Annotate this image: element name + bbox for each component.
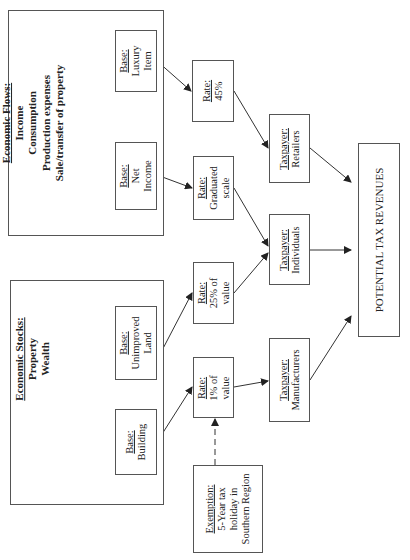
- rate-label: Rate:: [201, 80, 213, 102]
- taxpayer-label: Taxpayer:: [277, 226, 289, 273]
- exemption-box: Exemption: 5-Year tax holiday in Souther…: [193, 465, 263, 553]
- base-unimproved-land: Base: Unimproved Land: [115, 306, 157, 380]
- taxpayer-label: Taxpayer:: [277, 349, 289, 410]
- rate-label: Rate:: [195, 278, 207, 309]
- taxpayer-individuals: Taxpayer: Individuals: [269, 214, 310, 285]
- base-label: Base:: [118, 160, 130, 192]
- taxpayer-retailers: Taxpayer: Retailers: [269, 114, 310, 183]
- taxpayer-value: Retailers: [290, 128, 302, 170]
- flow-item: Consumption: [26, 65, 39, 181]
- rate-45-percent: Rate: 45%: [192, 60, 234, 122]
- taxpayer-value: Manufacturers: [290, 349, 302, 410]
- exemption-value: 5-Year tax: [216, 474, 228, 545]
- economic-stocks-heading: Economic Stocks:: [13, 317, 26, 400]
- base-value: Building: [136, 424, 148, 461]
- base-value: Income: [142, 160, 154, 192]
- arrow-retailers-to-revenues: [310, 148, 351, 182]
- flow-item: Income: [13, 65, 26, 181]
- base-label: Base:: [118, 316, 130, 369]
- base-luxury-item: Base: Luxury Item: [115, 30, 157, 92]
- arrow-graduated-to-individuals: [234, 188, 268, 246]
- taxpayer-manufacturers: Taxpayer: Manufacturers: [269, 338, 310, 422]
- arrow-rate45-to-retailers: [234, 91, 268, 148]
- arrow-rate1-to-manufacturers: [234, 381, 268, 387]
- rate-value: 1% of: [207, 375, 219, 400]
- base-value: Unimproved: [130, 316, 142, 369]
- base-building: Base: Building: [115, 409, 157, 475]
- potential-tax-revenues-box: POTENTIAL TAX REVENUES: [358, 143, 400, 337]
- rate-value: value: [220, 375, 232, 400]
- rate-value: 25% of: [207, 278, 219, 309]
- stock-item: Property: [26, 317, 39, 400]
- exemption-label: Exemption:: [204, 474, 216, 545]
- economic-flows-text: Economic Flows: Income Consumption Produ…: [0, 65, 66, 181]
- exemption-value: Southern Region: [240, 474, 252, 545]
- taxpayer-label: Taxpayer:: [277, 128, 289, 170]
- rate-label: Rate:: [195, 375, 207, 400]
- rate-label: Rate:: [195, 166, 207, 210]
- base-value: Item: [142, 46, 154, 77]
- arrow-rate25-to-individuals: [234, 253, 268, 293]
- rate-graduated-scale: Rate: Graduated scale: [193, 156, 234, 220]
- base-label: Base:: [124, 424, 136, 461]
- exemption-value: holiday in: [228, 474, 240, 545]
- flow-item: Sale/transfer of property: [53, 65, 66, 181]
- rate-value: value: [220, 278, 232, 309]
- rate-value: 45%: [213, 80, 225, 102]
- rate-25-percent-of-value: Rate: 25% of value: [193, 262, 234, 324]
- rate-1-percent-of-value: Rate: 1% of value: [193, 357, 234, 418]
- rate-value: scale: [220, 166, 232, 210]
- stock-item: Wealth: [40, 317, 53, 400]
- rate-value: Graduated: [207, 166, 219, 210]
- economic-stocks-text: Economic Stocks: Property Wealth: [13, 317, 53, 400]
- base-value: Luxury: [130, 46, 142, 77]
- base-net-income: Base: Net Income: [115, 142, 157, 210]
- economic-flows-heading: Economic Flows:: [0, 65, 13, 181]
- base-value: Land: [142, 316, 154, 369]
- potential-tax-revenues-label: POTENTIAL TAX REVENUES: [373, 168, 386, 313]
- base-value: Net: [130, 160, 142, 192]
- flow-item: Production expenses: [40, 65, 53, 181]
- base-label: Base:: [118, 46, 130, 77]
- taxpayer-value: Individuals: [290, 226, 302, 273]
- arrow-manufacturers-to-revenues: [310, 316, 351, 380]
